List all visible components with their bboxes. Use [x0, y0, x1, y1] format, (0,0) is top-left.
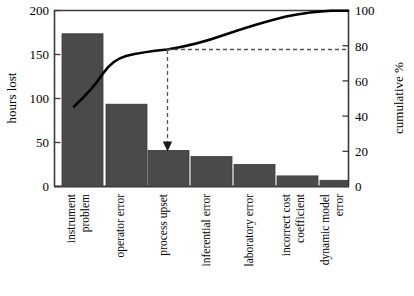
pareto-chart-canvas: 0 50 100 150 200 0 20 40 60 80 100 hours…: [0, 0, 414, 296]
right-tick-label-0: 0: [355, 179, 362, 194]
bar-laboratory-error[interactable]: [234, 165, 275, 187]
left-tick-label-0: 0: [43, 179, 50, 194]
bar-dynamic-model-error[interactable]: [320, 180, 348, 186]
left-tick-label-100: 100: [30, 91, 50, 106]
bar-process-upset[interactable]: [148, 150, 189, 186]
left-tick-label-50: 50: [36, 135, 49, 150]
y2-axis-title: cumulative %: [391, 62, 406, 134]
right-tick-label-100: 100: [355, 3, 375, 18]
right-tick-label-80: 80: [355, 39, 368, 54]
cat-label-operator-error: operator error: [114, 194, 127, 258]
right-tick-label-40: 40: [355, 109, 368, 124]
pareto-chart: 0 50 100 150 200 0 20 40 60 80 100 hours…: [0, 0, 414, 296]
bar-incorrect-cost-coefficient[interactable]: [277, 176, 318, 187]
cat-label-dynamic-model-error-line1: dynamic model: [319, 194, 332, 265]
y-axis-title: hours lost: [4, 72, 19, 123]
cat-label-dynamic-model-error-line2: error: [333, 194, 345, 217]
cat-label-instrument-problem-line1: instrument: [65, 193, 77, 243]
bar-operator-error[interactable]: [106, 104, 147, 186]
right-tick-label-60: 60: [355, 74, 368, 89]
left-tick-label-150: 150: [30, 47, 50, 62]
cat-label-incorrect-cost-coefficient-line1: incorrect cost: [280, 193, 292, 256]
cat-label-laboratory-error: laboratory error: [243, 194, 256, 267]
cat-label-inferential-error: inferential error: [200, 194, 212, 267]
cat-label-instrument-problem-line2: problem: [79, 194, 92, 232]
left-tick-label-200: 200: [30, 3, 50, 18]
cat-label-process-upset: process upset: [157, 193, 170, 255]
bar-inferential-error[interactable]: [191, 157, 232, 187]
cat-label-incorrect-cost-coefficient-line2: coefficient: [294, 193, 306, 243]
bar-instrument-problem[interactable]: [62, 34, 103, 187]
right-tick-label-20: 20: [355, 144, 368, 159]
